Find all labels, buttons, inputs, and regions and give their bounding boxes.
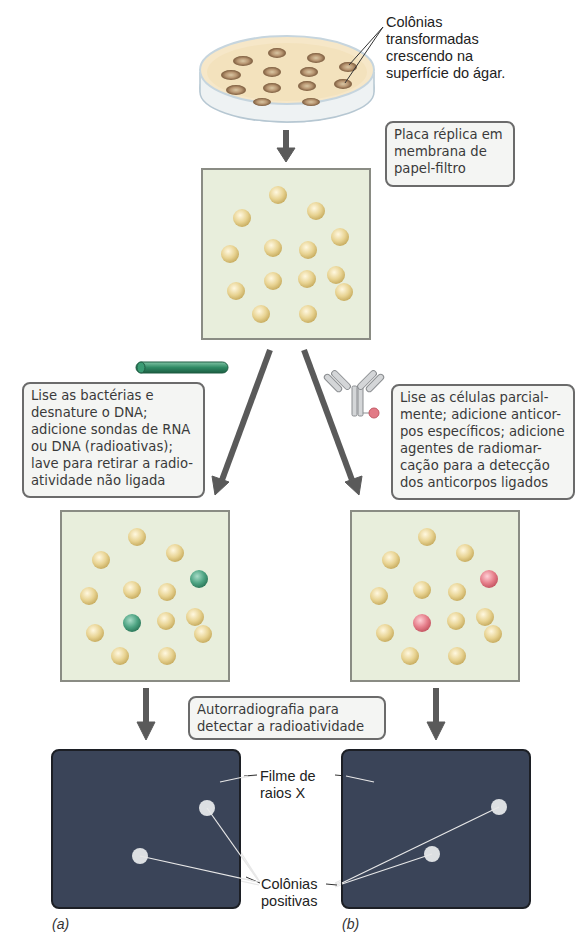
replica-plate-box: Placa réplica em membrana de papel-filtr… <box>385 121 515 187</box>
antibody-instructions-box: Lise as células parcial- mente; adicione… <box>391 384 575 500</box>
panel-label-b: (b) <box>342 916 359 932</box>
positive-colonies-label: Colônias positivas <box>261 876 317 910</box>
probe-instructions-box: Lise as bactérias e desnature o DNA; adi… <box>22 382 205 498</box>
autoradiography-box: Autorradiografia para detectar a radioat… <box>188 696 386 740</box>
panel-label-a: (a) <box>52 916 69 932</box>
xray-film-label: Filme de raios X <box>260 768 316 802</box>
colonies-callout: Colônias transformadas crescendo na supe… <box>386 14 505 82</box>
